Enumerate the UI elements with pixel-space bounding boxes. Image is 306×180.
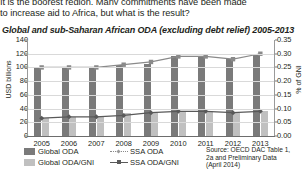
source-line-3: (April 2014): [206, 161, 306, 169]
chart-legend: Global ODA Global ODA/GNI SSA ODA SSA OD…: [24, 147, 204, 171]
gridline: [28, 109, 274, 110]
tick-mark-left: [24, 108, 27, 109]
global-oda-gni-marker-2010: [176, 54, 180, 58]
tick-mark-right: [275, 136, 278, 137]
x-axis-line: [27, 136, 275, 137]
gridline: [28, 95, 274, 96]
legend-dotted-line-icon-ssa-oda: [110, 148, 128, 155]
legend-swatch-icon-global-oda-gni: [24, 159, 35, 166]
plot-wrapper: USD billions % of GNI 020406080100120140…: [0, 38, 306, 143]
legend-label-ssa-oda: SSA ODA: [130, 147, 163, 156]
y-tick-right-0.15: 0.15: [277, 91, 291, 99]
y-tick-right-0.05: 0.05: [277, 118, 291, 126]
global-oda-gni-marker-2009: [149, 60, 153, 64]
global-oda-gni-marker-2012: [231, 57, 235, 61]
global-oda-gni-marker-2008: [121, 62, 125, 66]
ssa-oda-gni-marker-2008: [121, 113, 126, 118]
legend-item-ssa-oda-gni: SSA ODA/GNI: [110, 158, 179, 168]
legend-item-global-oda-gni: Global ODA/GNI: [24, 158, 94, 168]
body-text-line-1: It is the poorest region. Many commitmen…: [0, 0, 306, 5]
tick-mark-left: [24, 67, 27, 68]
legend-label-ssa-oda-gni: SSA ODA/GNI: [130, 158, 179, 167]
gridline: [28, 122, 274, 123]
y-tick-right-0.35: 0.35: [277, 36, 291, 44]
page-root: It is the poorest region. Many commitmen…: [0, 0, 306, 180]
plot-area: [28, 40, 274, 136]
legend-item-ssa-oda: SSA ODA: [110, 147, 163, 157]
legend-swatch-icon-global-oda: [24, 148, 35, 155]
source-line-2: 2a and Preliminary Data: [206, 154, 306, 162]
tick-mark-left: [24, 81, 27, 82]
tick-mark-left: [24, 94, 27, 95]
gridline: [28, 67, 274, 68]
figure-source-note: Source: OECD DAC Table 1, 2a and Prelimi…: [206, 146, 306, 169]
global-oda-gni-marker-2011: [203, 54, 207, 58]
y-axis-right-ticks: 0.000.050.100.150.200.250.300.35: [277, 38, 301, 138]
ssa-oda-gni-marker-2005: [39, 116, 44, 121]
ssa-oda-gni-marker-2007: [94, 114, 99, 119]
legend-label-global-oda: Global ODA: [38, 147, 79, 156]
ssa-oda-gni-marker-2009: [148, 110, 153, 115]
tick-mark-right: [275, 81, 278, 82]
tick-mark-right: [275, 40, 278, 41]
ssa-oda-gni-marker-2012: [230, 110, 235, 115]
y-tick-right-0.10: 0.10: [277, 105, 291, 113]
tick-mark-left: [24, 122, 27, 123]
figure-container: Global and sub-Saharan African ODA (excl…: [0, 25, 306, 180]
tick-mark-right: [275, 67, 278, 68]
article-body-text: It is the poorest region. Many commitmen…: [0, 0, 306, 19]
y-tick-right-0.30: 0.30: [277, 50, 291, 58]
y-tick-right-0.00: 0.00: [277, 132, 291, 140]
tick-mark-left: [24, 136, 27, 137]
legend-item-global-oda: Global ODA: [24, 147, 79, 157]
legend-label-global-oda-gni: Global ODA/GNI: [38, 158, 94, 167]
body-text-line-2: to increase aid to Africa, but what is t…: [0, 8, 306, 19]
tick-mark-left: [24, 53, 27, 54]
figure-title: Global and sub-Saharan African ODA (excl…: [2, 25, 304, 36]
gridline: [28, 54, 274, 55]
y-tick-right-0.20: 0.20: [277, 77, 291, 85]
y-tick-right-0.25: 0.25: [277, 63, 291, 71]
tick-mark-right: [275, 108, 278, 109]
tick-mark-right: [275, 122, 278, 123]
tick-mark-right: [275, 53, 278, 54]
tick-mark-right: [275, 94, 278, 95]
legend-line-marker-icon-ssa-oda-gni: [110, 159, 128, 166]
gridline: [28, 81, 274, 82]
source-line-1: Source: OECD DAC Table 1,: [206, 146, 306, 154]
ssa-oda-gni-marker-2006: [66, 114, 71, 119]
tick-mark-left: [24, 40, 27, 41]
